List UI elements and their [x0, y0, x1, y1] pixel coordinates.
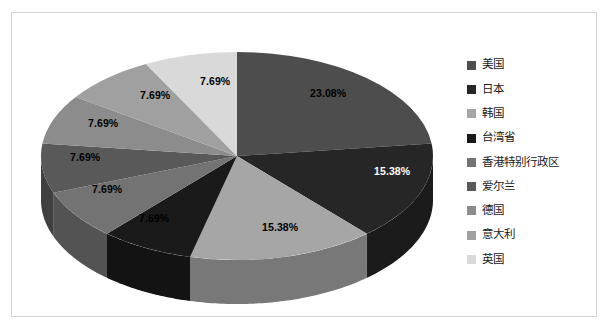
legend-item[interactable]: 台湾省 — [467, 126, 595, 150]
legend-swatch-icon — [467, 85, 476, 94]
legend-item[interactable]: 德国 — [467, 199, 595, 223]
legend-item[interactable]: 英国 — [467, 247, 595, 271]
legend-swatch-icon — [467, 158, 476, 167]
legend-item-label: 爱尔兰 — [482, 181, 515, 193]
legend-item-label: 香港特别行政区 — [482, 157, 559, 169]
pie-data-label: 15.38% — [262, 221, 298, 233]
legend-swatch-icon — [467, 231, 476, 240]
pie-data-label: 7.69% — [139, 212, 169, 224]
legend-item-label: 台湾省 — [482, 132, 515, 144]
legend-swatch-icon — [467, 109, 476, 118]
pie-data-label: 7.69% — [140, 89, 170, 101]
legend-swatch-icon — [467, 134, 476, 143]
legend-item[interactable]: 日本 — [467, 77, 595, 101]
chart-frame: 23.08%15.38%15.38%7.69%7.69%7.69%7.69%7.… — [11, 12, 597, 317]
chart-legend: 美国日本韩国台湾省香港特别行政区爱尔兰德国意大利英国 — [467, 53, 595, 272]
legend-item[interactable]: 韩国 — [467, 102, 595, 126]
pie-data-label: 23.08% — [310, 87, 346, 99]
legend-item-label: 德国 — [482, 205, 504, 217]
legend-item[interactable]: 意大利 — [467, 223, 595, 247]
pie-data-label: 7.69% — [70, 151, 100, 163]
pie-data-label: 7.69% — [88, 117, 118, 129]
legend-item-label: 韩国 — [482, 108, 504, 120]
pie-slice-1[interactable] — [237, 52, 432, 156]
legend-item[interactable]: 香港特别行政区 — [467, 150, 595, 174]
legend-item-label: 日本 — [482, 84, 504, 96]
legend-swatch-icon — [467, 206, 476, 215]
legend-swatch-icon — [467, 182, 476, 191]
legend-item-label: 美国 — [482, 59, 504, 71]
legend-swatch-icon — [467, 255, 476, 264]
legend-item[interactable]: 爱尔兰 — [467, 174, 595, 198]
pie-data-label: 15.38% — [374, 165, 410, 177]
legend-item[interactable]: 美国 — [467, 53, 595, 77]
pie-data-label: 7.69% — [200, 75, 230, 87]
legend-item-label: 英国 — [482, 254, 504, 266]
legend-item-label: 意大利 — [482, 229, 515, 241]
legend-swatch-icon — [467, 61, 476, 70]
pie-data-label: 7.69% — [92, 183, 122, 195]
pie-chart-area: 23.08%15.38%15.38%7.69%7.69%7.69%7.69%7.… — [12, 13, 462, 316]
